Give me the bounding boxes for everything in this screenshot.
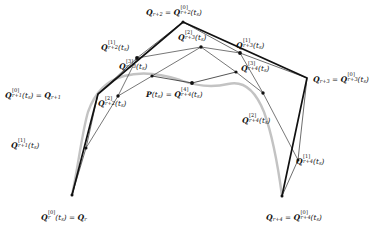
dot-Q-r3-3: [150, 74, 153, 77]
level-4-chords: [152, 72, 236, 83]
label-q-r2-1: Q[1]r+2(ts): [101, 41, 129, 52]
label-q-r1-0: Q[0]r+1(ts) = Qr+1: [5, 89, 61, 100]
dot-Q-r4-2: [261, 91, 264, 94]
label-q-r4-2: Q[2]r+4(ts): [242, 114, 270, 125]
de-boor-diagram: Qr+2 = Q[0]r+2(ts) Q[1]r+2(ts) Q[2]r+3(t…: [0, 0, 386, 235]
label-q-r2-0: Qr+2 = Q[0]r+2(ts): [146, 6, 202, 17]
label-q-r2-2: Q[2]r+2(ts): [98, 97, 126, 108]
label-q-r3-2: Q[2]r+3(ts): [178, 31, 206, 42]
dot-Q-r1-1: [85, 147, 88, 150]
dot-Q-r4: [281, 195, 284, 198]
dot-Q-r3-1: [238, 51, 242, 55]
label-q-r4-0: Qr+4 = Q[0]r+4(ts): [266, 211, 322, 222]
dot-Q-r4-3: [234, 70, 237, 73]
chord-l1-e: [298, 78, 307, 160]
chord-l3-c: [201, 47, 236, 72]
dot-Q-r: [71, 194, 74, 197]
dot-P-ts: [190, 81, 194, 85]
label-q-r1-1: Q[1]r+1(ts): [11, 139, 39, 150]
chord-l2-e: [240, 53, 263, 93]
label-q-r3-3: Q[3]r+3(ts): [119, 60, 147, 71]
label-q-r-0: Q[0]r(ts) = Qr: [41, 211, 87, 222]
dot-Q-r3-2: [199, 45, 202, 48]
label-q-r3-1: Q[1]r+3(ts): [236, 39, 264, 50]
label-q-r4-1: Q[1]r+4(ts): [296, 155, 324, 166]
label-q-r4-3: Q[3]r+4(ts): [241, 62, 269, 73]
label-q-r3-0: Qr+3 = Q[0]r+3(ts): [313, 73, 369, 84]
dot-Q-r2: [182, 21, 185, 24]
label-p-ts: P(ts) = Q[4]r+4(ts): [146, 88, 203, 99]
chord-l4-b: [192, 72, 236, 83]
